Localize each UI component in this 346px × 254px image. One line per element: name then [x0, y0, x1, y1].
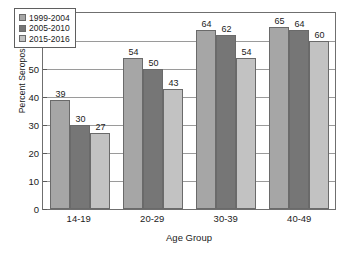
y-tick-label: 0 [34, 204, 39, 215]
legend: 1999-20042005-20102015-2016 [14, 8, 76, 48]
bar-value-label: 65 [269, 16, 291, 26]
bar-group: 545043 [123, 13, 183, 209]
bar-fill [123, 58, 143, 209]
x-tick-label: 40-49 [269, 213, 329, 224]
bar-fill [236, 58, 256, 209]
legend-item[interactable]: 2005-2010 [19, 23, 70, 33]
y-tick-label: 20 [28, 148, 39, 159]
bar-value-label: 64 [289, 19, 311, 29]
x-tick-label: 14-19 [49, 213, 109, 224]
bar[interactable]: 54 [123, 13, 143, 209]
y-tick-mark [43, 209, 47, 210]
bar-chart: Percent Seropositive 010203040506070 393… [0, 0, 346, 254]
bar-fill [70, 125, 90, 209]
legend-swatch [19, 35, 26, 42]
bar-value-label: 54 [236, 47, 258, 57]
x-tick-label: 30-39 [196, 213, 256, 224]
bar[interactable]: 65 [269, 13, 289, 209]
y-tick-label: 40 [28, 92, 39, 103]
plot-area: 010203040506070 393027545043646254656460 [42, 12, 336, 210]
bar-value-label: 64 [196, 19, 218, 29]
bar-fill [216, 35, 236, 209]
legend-label: 2005-2010 [29, 23, 70, 33]
bar-value-label: 54 [123, 47, 145, 57]
bar[interactable]: 60 [309, 13, 329, 209]
bar[interactable]: 64 [289, 13, 309, 209]
bar-value-label: 62 [216, 24, 238, 34]
x-axis-title: Age Group [40, 232, 338, 243]
bar-fill [50, 100, 70, 209]
bar[interactable]: 54 [236, 13, 256, 209]
y-tick-label: 30 [28, 120, 39, 131]
bar-value-label: 39 [50, 89, 72, 99]
bar-fill [90, 133, 110, 209]
bar[interactable]: 64 [196, 13, 216, 209]
bar-groups: 393027545043646254656460 [43, 13, 335, 209]
legend-swatch [19, 14, 26, 21]
x-tick-label: 20-29 [122, 213, 182, 224]
bar-fill [309, 41, 329, 209]
bar-group: 656460 [269, 13, 329, 209]
x-axis-tick-labels: 14-1920-2930-3940-49 [42, 213, 336, 224]
bar[interactable]: 27 [90, 13, 110, 209]
bar-fill [143, 69, 163, 209]
bar[interactable]: 50 [143, 13, 163, 209]
bar-fill [163, 89, 183, 209]
bar-value-label: 43 [163, 78, 185, 88]
bar[interactable]: 43 [163, 13, 183, 209]
bar-value-label: 27 [90, 122, 112, 132]
bar[interactable]: 62 [216, 13, 236, 209]
bar-fill [269, 27, 289, 209]
legend-label: 1999-2004 [29, 13, 70, 23]
bar-value-label: 60 [309, 30, 331, 40]
bar-group: 646254 [196, 13, 256, 209]
legend-item[interactable]: 2015-2016 [19, 34, 70, 44]
bar-fill [196, 30, 216, 209]
legend-item[interactable]: 1999-2004 [19, 13, 70, 23]
legend-swatch [19, 25, 26, 32]
bar-value-label: 50 [143, 58, 165, 68]
bar-fill [289, 30, 309, 209]
legend-label: 2015-2016 [29, 34, 70, 44]
bar-value-label: 30 [70, 114, 92, 124]
y-tick-label: 10 [28, 176, 39, 187]
y-tick-label: 50 [28, 64, 39, 75]
